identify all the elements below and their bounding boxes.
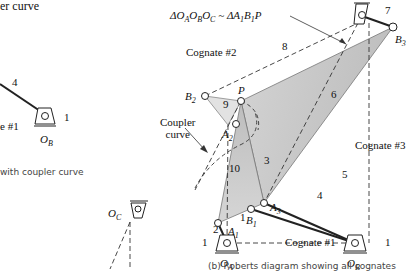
link-3: 3 — [264, 155, 270, 166]
coupler-curve-label: Couplercurve — [160, 116, 195, 140]
coupler-6 — [241, 27, 393, 203]
similarity-relation: ΔOAOBOC ~ ΔA1B1P — [170, 10, 262, 24]
cognate-1-label: Cognate #1 — [285, 237, 335, 248]
point-a3: A3 — [270, 202, 281, 216]
ground-pivot-oc-top — [354, 3, 370, 24]
link-1-right: 1 — [385, 237, 391, 248]
point-a1: A1 — [228, 226, 239, 240]
link-5: 5 — [342, 169, 348, 180]
link-7: 7 — [385, 5, 391, 16]
cognate-fragment: e #1 — [0, 121, 19, 132]
point-b1: B1 — [246, 215, 257, 229]
cognate-3-label: Cognate #3 — [355, 140, 405, 151]
title-fragment: er curve — [0, 0, 39, 12]
cognate-2-label: Cognate #2 — [186, 47, 236, 58]
figure-caption: (b) Roberts diagram showing all cognates — [208, 261, 396, 271]
ground-label-left: 1 — [64, 112, 70, 123]
point-b2: B2 — [185, 91, 196, 105]
point-oc: OC — [108, 208, 121, 222]
link-1-left: 1 — [202, 237, 208, 248]
link-9: 9 — [223, 99, 229, 110]
ground-pivot-ob-left — [34, 108, 56, 126]
point-a2: A2 — [222, 129, 233, 143]
link-4: 4 — [317, 190, 323, 201]
point-b3: B3 — [395, 34, 406, 48]
caption-fragment-left: with coupler curve — [0, 167, 84, 177]
point-p: P — [238, 85, 245, 96]
pivot-label-ob-left: OB — [40, 134, 53, 148]
ground-pivot-oc — [130, 201, 148, 218]
link-2: 2 — [213, 224, 219, 235]
ground-pivot-ob — [343, 235, 367, 253]
link-6: 6 — [331, 89, 337, 100]
link-10: 10 — [229, 163, 240, 174]
link-1-oc: 1 — [240, 212, 246, 223]
link-8: 8 — [282, 41, 288, 52]
link-label-4-left: 4 — [12, 77, 18, 88]
